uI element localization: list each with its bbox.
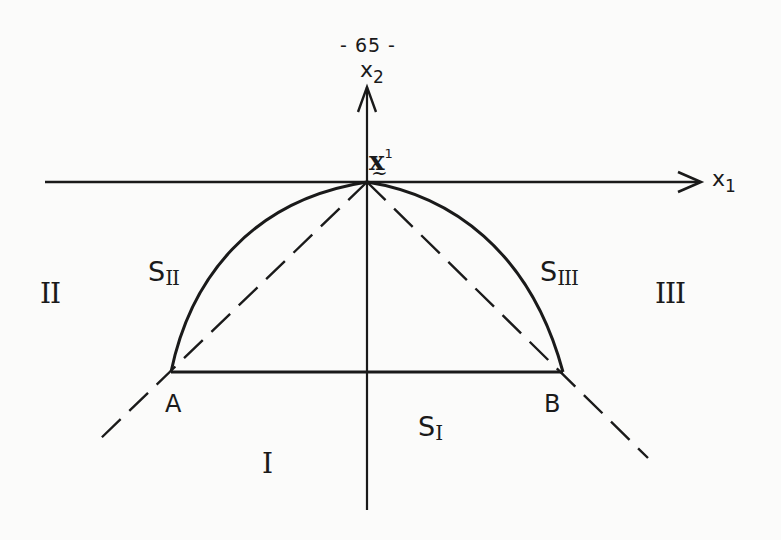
region-ii-label: II	[40, 280, 60, 308]
x2-axis-label: x2	[360, 59, 384, 86]
x1-axis-label-name: x	[712, 166, 725, 191]
surface-s-iii-label: SIII	[540, 258, 578, 288]
surface-subscript: III	[557, 266, 578, 290]
region-iii-label: III	[655, 280, 685, 308]
x1-axis-label: x1	[712, 168, 736, 195]
surface-s-i-label: SI	[418, 413, 442, 443]
surface-subscript: II	[165, 266, 179, 290]
point-b-label: B	[544, 392, 560, 416]
page-number: - 65 -	[340, 36, 396, 55]
x1-axis-label-sub: 1	[725, 176, 736, 196]
origin-vector-label: x1~	[369, 147, 393, 174]
x2-axis-label-sub: 2	[373, 67, 384, 87]
point-a-label: A	[165, 392, 181, 416]
region-i-label: I	[262, 450, 272, 478]
dashed-line-right	[367, 182, 648, 458]
surface-s-ii-label: SII	[148, 258, 179, 288]
dashed-line-left	[98, 182, 367, 441]
surface-letter: S	[148, 256, 165, 287]
surface-letter: S	[418, 411, 435, 442]
surface-subscript: I	[435, 421, 442, 445]
vector-superscript: 1	[385, 146, 393, 161]
diagram-canvas	[0, 0, 781, 540]
tilde-underline-icon: ~	[371, 163, 388, 183]
x2-axis-label-name: x	[360, 57, 373, 82]
surface-letter: S	[540, 256, 557, 287]
